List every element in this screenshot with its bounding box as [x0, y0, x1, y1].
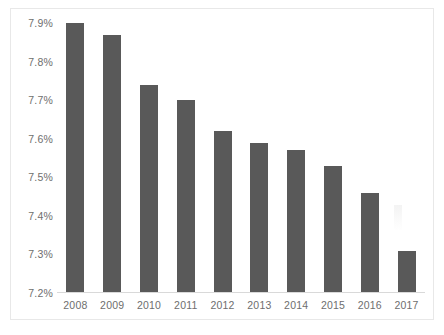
x-axis-tick-label: 2012 [204, 299, 241, 321]
chart-plot-wrapper: 7.9%7.8%7.7%7.6%7.5%7.4%7.3%7.2% 2008200… [11, 9, 433, 319]
y-axis-tick-label: 7.4% [28, 210, 53, 222]
bar-series [57, 23, 425, 293]
y-axis-tick-label: 7.9% [28, 17, 53, 29]
y-axis-tick-label: 7.7% [28, 94, 53, 106]
bar-slot [315, 23, 352, 293]
bar-slot [351, 23, 388, 293]
x-axis-tick-label: 2017 [388, 299, 425, 321]
x-axis-tick-label: 2011 [167, 299, 204, 321]
bar-slot [167, 23, 204, 293]
bar-2012[interactable] [214, 131, 232, 293]
bar-slot [131, 23, 168, 293]
bar-slot [241, 23, 278, 293]
x-axis: 2008200920102011201220132014201520162017 [57, 299, 425, 321]
bar-2017[interactable] [398, 251, 416, 293]
bar-2009[interactable] [103, 35, 121, 293]
bar-slot [94, 23, 131, 293]
plot-area [57, 23, 425, 293]
y-axis-tick-label: 7.8% [28, 56, 53, 68]
y-axis-tick-label: 7.5% [28, 171, 53, 183]
y-axis: 7.9%7.8%7.7%7.6%7.5%7.4%7.3%7.2% [11, 9, 57, 319]
bar-2008[interactable] [66, 23, 84, 293]
bar-2010[interactable] [140, 85, 158, 293]
bar-2015[interactable] [324, 166, 342, 293]
bar-slot [278, 23, 315, 293]
x-axis-tick-label: 2014 [278, 299, 315, 321]
x-axis-tick-label: 2010 [131, 299, 168, 321]
x-axis-tick-label: 2016 [351, 299, 388, 321]
bar-2014[interactable] [287, 150, 305, 293]
y-axis-tick-label: 7.2% [28, 287, 53, 299]
bar-2016[interactable] [361, 193, 379, 293]
bar-2013[interactable] [250, 143, 268, 293]
bar-2011[interactable] [177, 100, 195, 293]
chart-container: 7.9%7.8%7.7%7.6%7.5%7.4%7.3%7.2% 2008200… [10, 8, 434, 320]
bar-slot [388, 23, 425, 293]
x-axis-tick-label: 2013 [241, 299, 278, 321]
x-axis-line [57, 292, 425, 293]
y-axis-tick-label: 7.6% [28, 133, 53, 145]
x-axis-tick-label: 2008 [57, 299, 94, 321]
x-axis-tick-label: 2015 [315, 299, 352, 321]
bar-slot [204, 23, 241, 293]
x-axis-tick-label: 2009 [94, 299, 131, 321]
y-axis-tick-label: 7.3% [28, 248, 53, 260]
bar-slot [57, 23, 94, 293]
